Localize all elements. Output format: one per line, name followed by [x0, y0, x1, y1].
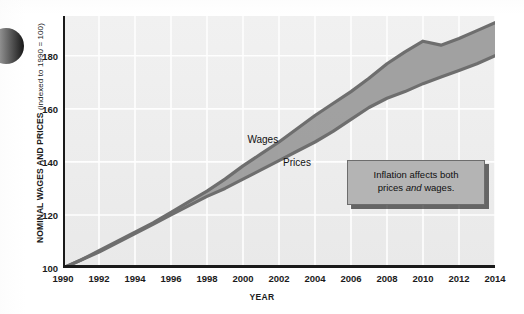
callout-emphasis: and [406, 182, 422, 193]
plot-area: 100120140160180 199019921994199619982000… [63, 16, 495, 268]
series-label-wages: Wages [247, 134, 278, 145]
callout-line-2: prices and wages. [354, 182, 478, 195]
y-axis-title-main: NOMINAL WAGES AND PRICES [35, 113, 45, 243]
series-label-prices: Prices [283, 156, 311, 167]
y-tick-label-100: 100 [42, 263, 58, 274]
y-tick-label-140: 140 [42, 156, 58, 167]
x-tick-label-2002: 2002 [268, 273, 289, 284]
x-tick-label-2004: 2004 [304, 273, 325, 284]
x-tick-label-2012: 2012 [448, 273, 469, 284]
y-tick-label-180: 180 [42, 50, 58, 61]
x-tick-label-1992: 1992 [88, 273, 109, 284]
chart-canvas [63, 16, 495, 268]
y-tick-label-160: 160 [42, 103, 58, 114]
x-tick-label-2014: 2014 [484, 273, 505, 284]
x-tick-label-2008: 2008 [376, 273, 397, 284]
x-tick-label-2000: 2000 [232, 273, 253, 284]
chart-figure: NOMINAL WAGES AND PRICES (indexed to 199… [0, 0, 524, 314]
callout-line-2-pre: prices [378, 182, 406, 193]
x-tick-label-2010: 2010 [412, 273, 433, 284]
x-tick-label-2006: 2006 [340, 273, 361, 284]
x-tick-label-1990: 1990 [52, 273, 73, 284]
y-axis-title: NOMINAL WAGES AND PRICES (indexed to 199… [35, 0, 45, 273]
filled-circle-bullet-icon [0, 28, 24, 64]
y-tick-label-120: 120 [42, 209, 58, 220]
x-axis-title: YEAR [0, 292, 524, 302]
x-tick-label-1996: 1996 [160, 273, 181, 284]
x-tick-label-1998: 1998 [196, 273, 217, 284]
y-axis-title-note: (indexed to 1990 = 100) [36, 23, 45, 110]
callout-line-2-post: wages. [422, 182, 455, 193]
x-tick-label-1994: 1994 [124, 273, 145, 284]
callout-line-1: Inflation affects both [354, 169, 478, 182]
inflation-callout-annotation: Inflation affects both prices and wages. [347, 160, 485, 205]
